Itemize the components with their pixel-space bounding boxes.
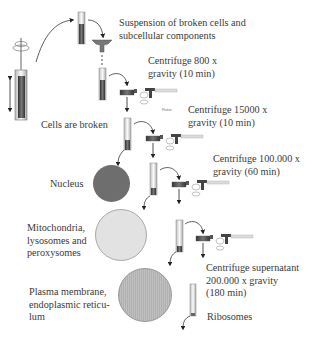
rotor-label: Rotor — [162, 104, 172, 117]
arrow-icon — [170, 252, 176, 264]
step4-line-3: (180 min) — [206, 287, 299, 300]
test-tube-icon — [176, 220, 183, 252]
arrow-icon — [109, 74, 127, 84]
arrow-icon — [185, 222, 203, 232]
step2-line-1: Centrifuge 15000 x — [188, 104, 267, 117]
ribosomes-label: Ribosomes — [207, 311, 252, 324]
arrow-icon — [160, 168, 179, 178]
centrifuge-rotor-icon — [172, 180, 229, 196]
centrifuge-rotor-icon — [120, 88, 177, 104]
mitochondria-label: Mitochondria, lysosomes and peroxysomes — [27, 222, 87, 260]
step1-line-2: gravity (10 min) — [148, 68, 217, 81]
test-tube-icon — [124, 118, 131, 150]
step3-line-1: Centrifuge 100.000 x — [213, 153, 300, 166]
membrane-pellet — [118, 268, 172, 322]
nucleus-pellet — [93, 165, 130, 202]
step3-label: Centrifuge 100.000 x gravity (60 min) — [213, 153, 300, 178]
step4-line-2: 200.000 x gravity — [206, 275, 299, 288]
mitochondria-line-3: peroxysomes — [27, 247, 87, 260]
membrane-line-1: Plasma membrane, — [29, 286, 110, 299]
step4-label: Centrifuge supernatant 200.000 x gravity… — [206, 262, 299, 300]
funnel-icon — [92, 40, 112, 65]
arrow-icon — [144, 196, 150, 208]
homogenizer-icon — [10, 38, 29, 120]
arrow-icon — [36, 20, 72, 62]
suspension-line-1: Suspension of broken cells and — [119, 17, 246, 30]
test-tube-icon — [78, 12, 85, 44]
centrifuge-rotor-icon — [196, 234, 253, 250]
cells-broken-label: Cells are broken — [41, 119, 108, 132]
test-tube-icon — [190, 284, 196, 316]
nucleus-label: Nucleus — [50, 178, 83, 191]
suspension-line-2: subcellular components — [119, 30, 246, 43]
mitochondria-pellet — [95, 209, 147, 261]
arrow-icon — [134, 122, 153, 132]
step2-label: Centrifuge 15000 x gravity (10 min) — [188, 104, 267, 129]
membrane-label: Plasma membrane, endoplasmic reticu- lum — [29, 286, 110, 324]
suspension-label: Suspension of broken cells and subcellul… — [119, 17, 246, 42]
step3-line-2: gravity (60 min) — [213, 166, 300, 179]
step1-line-1: Centrifuge 800 x — [148, 55, 217, 68]
centrifuge-rotor-icon — [146, 134, 203, 150]
step1-label: Centrifuge 800 x gravity (10 min) — [148, 55, 217, 80]
mitochondria-line-2: lysosomes and — [27, 235, 87, 248]
step2-line-2: gravity (10 min) — [188, 117, 267, 130]
test-tube-icon — [150, 163, 157, 195]
arrow-icon — [118, 150, 124, 164]
arrow-icon — [183, 316, 190, 328]
step4-line-1: Centrifuge supernatant — [206, 262, 299, 275]
mitochondria-line-1: Mitochondria, — [27, 222, 87, 235]
arrow-icon — [88, 20, 103, 36]
membrane-line-3: lum — [29, 311, 110, 324]
membrane-line-2: endoplasmic reticu- — [29, 299, 110, 312]
test-tube-icon — [99, 68, 106, 100]
